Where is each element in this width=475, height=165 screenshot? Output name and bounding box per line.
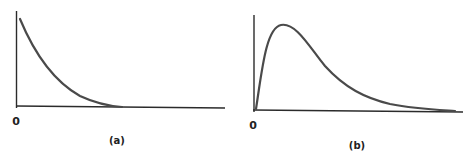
figure: 0 (a) 0 (b) bbox=[0, 0, 475, 165]
panel-b: 0 (b) bbox=[249, 15, 463, 151]
decay-curve bbox=[20, 19, 122, 107]
panel-label-b: (b) bbox=[349, 140, 365, 151]
panel-label-a: (a) bbox=[109, 135, 125, 146]
origin-label-a: 0 bbox=[12, 115, 20, 128]
panel-a: 0 (a) bbox=[12, 11, 225, 146]
skewed-curve bbox=[256, 25, 455, 111]
origin-label-b: 0 bbox=[249, 119, 257, 132]
